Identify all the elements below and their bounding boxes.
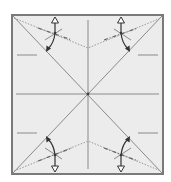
center-point — [87, 93, 90, 96]
origami-diagram — [0, 0, 171, 182]
